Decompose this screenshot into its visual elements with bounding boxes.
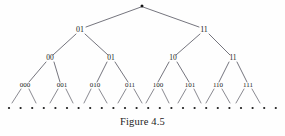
edge-000-left	[12, 89, 21, 103]
node-label-011: 011	[125, 81, 136, 89]
leaf-dot	[54, 107, 56, 109]
leaf-dot	[112, 107, 114, 109]
leaf-dot	[78, 107, 80, 109]
edge-111-right	[252, 89, 260, 103]
figure-container: 01 11 00 01 10 11 000 001 010 011 100 10…	[0, 0, 285, 136]
edge-00-to-000	[29, 62, 46, 82]
edge-10-to-100	[158, 62, 169, 82]
node-label-000: 000	[20, 81, 31, 89]
node-label-111: 111	[243, 81, 253, 89]
node-label-110: 110	[213, 81, 224, 89]
leaf-dot	[136, 107, 138, 109]
edge-011-left	[118, 89, 126, 103]
leaf-dot	[20, 107, 22, 109]
leaf-dot	[66, 107, 68, 109]
node-label-11-level1: 11	[200, 25, 208, 34]
edge-01-to-010	[97, 62, 107, 82]
leaf-dot	[205, 107, 207, 109]
level1-labels: 01 11	[76, 25, 208, 34]
node-label-010: 010	[90, 81, 101, 89]
edges-level1-to-level2	[53, 34, 230, 55]
edges-level2-to-level3	[29, 62, 247, 82]
edge-011-right	[134, 89, 142, 103]
leaf-dot	[89, 107, 91, 109]
edge-01-to-01	[85, 34, 108, 55]
node-label-001: 001	[57, 81, 68, 89]
node-label-01-level1: 01	[76, 25, 84, 34]
node-label-101: 101	[185, 81, 196, 89]
leaf-dot-row	[8, 107, 277, 109]
leaf-dot	[252, 107, 254, 109]
node-label-100: 100	[153, 81, 164, 89]
edge-root-to-11	[143, 7, 199, 27]
leaf-dot	[101, 107, 103, 109]
leaf-dot	[124, 107, 126, 109]
edges-level3-to-leaves	[12, 89, 260, 103]
edge-010-left	[84, 89, 91, 103]
edge-010-right	[99, 89, 107, 103]
leaf-dot	[147, 107, 149, 109]
leaf-dot	[275, 107, 277, 109]
edge-110-left	[206, 89, 214, 103]
edge-001-left	[50, 89, 58, 103]
edge-111-left	[236, 89, 244, 103]
leaf-dot	[182, 107, 184, 109]
edge-101-left	[178, 89, 186, 103]
edge-root-to-01	[86, 7, 141, 27]
edge-100-left	[146, 89, 154, 103]
edge-11-to-10	[176, 34, 200, 55]
figure-caption: Figure 4.5	[0, 116, 285, 127]
edge-11-to-111	[237, 62, 247, 82]
node-label-11-level2: 11	[229, 53, 236, 62]
leaf-dot	[170, 107, 172, 109]
level3-labels: 000 001 010 011 100 101 110 111	[20, 81, 254, 89]
edge-11-to-11	[209, 34, 230, 55]
leaf-dot	[263, 107, 265, 109]
edge-00-to-001	[54, 62, 60, 82]
leaf-dot	[240, 107, 242, 109]
edge-01-to-011	[115, 62, 128, 82]
edge-101-right	[194, 89, 201, 103]
edge-100-right	[162, 89, 169, 103]
edge-110-right	[222, 89, 230, 103]
edge-01-to-00	[53, 34, 76, 55]
node-label-00-level2: 00	[46, 53, 54, 62]
node-label-01-level2: 01	[107, 53, 115, 62]
leaf-dot	[228, 107, 230, 109]
edges-root-to-level1	[86, 7, 199, 27]
edge-001-right	[66, 89, 73, 103]
edge-11-to-110	[219, 62, 229, 82]
leaf-dot	[8, 107, 10, 109]
edge-000-right	[29, 89, 36, 103]
leaf-dot	[159, 107, 161, 109]
leaf-dot	[194, 107, 196, 109]
level2-labels: 00 01 10 11	[46, 53, 237, 62]
edge-10-to-101	[177, 62, 189, 82]
leaf-dot	[43, 107, 45, 109]
node-label-10-level2: 10	[169, 53, 177, 62]
leaf-dot	[31, 107, 33, 109]
leaf-dot	[217, 107, 219, 109]
